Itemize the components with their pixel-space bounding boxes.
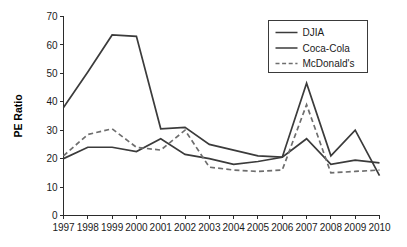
- y-axis: 010203040506070: [46, 11, 63, 221]
- y-tick-label: 0: [52, 210, 58, 221]
- x-tick-label: 2008: [320, 222, 343, 233]
- y-tick-label: 30: [46, 125, 58, 136]
- chart-legend: DJIACoca-ColaMcDonald's: [269, 21, 368, 73]
- pe-ratio-line-chart: 010203040506070 199719981999200020012002…: [0, 0, 407, 247]
- x-tick-label: 2004: [223, 222, 246, 233]
- x-tick-label: 1999: [101, 222, 124, 233]
- x-tick-label: 2002: [174, 222, 197, 233]
- series-line-mcdonald-s: [64, 105, 380, 173]
- x-tick-label: 2005: [247, 222, 270, 233]
- series-line-coca-cola: [64, 139, 380, 165]
- x-tick-label: 2001: [150, 222, 173, 233]
- x-axis: 1997199819992000200120022003200420052006…: [52, 216, 391, 233]
- y-axis-title: PE Ratio: [12, 94, 24, 137]
- chart-canvas: 010203040506070 199719981999200020012002…: [0, 0, 407, 247]
- x-tick-label: 1997: [52, 222, 75, 233]
- x-tick-label: 2010: [368, 222, 391, 233]
- x-tick-label: 2007: [295, 222, 318, 233]
- x-tick-label: 1998: [77, 222, 100, 233]
- x-tick-label: 2000: [125, 222, 148, 233]
- x-tick-label: 2006: [271, 222, 294, 233]
- y-tick-label: 20: [46, 153, 58, 164]
- y-tick-label: 10: [46, 182, 58, 193]
- y-tick-label: 50: [46, 68, 58, 79]
- legend-label-coca-cola: Coca-Cola: [303, 43, 351, 54]
- legend-label-djia: DJIA: [303, 27, 325, 38]
- x-tick-label: 2009: [344, 222, 367, 233]
- x-tick-label: 2003: [198, 222, 221, 233]
- y-tick-label: 60: [46, 40, 58, 51]
- legend-label-mcdonald-s: McDonald's: [303, 58, 355, 69]
- y-tick-label: 40: [46, 96, 58, 107]
- y-tick-label: 70: [46, 11, 58, 22]
